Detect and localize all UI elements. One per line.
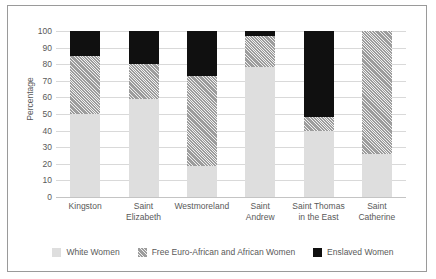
y-tick-label: 30 [18,143,52,152]
gridline [56,81,406,82]
x-tick-label-line: Saint [348,201,406,212]
bar-segment[interactable] [304,31,334,117]
gridline [56,131,406,132]
y-tick-label: 0 [18,193,52,202]
x-tick-label: SaintAndrew [231,201,289,223]
bar-segment[interactable] [362,154,392,197]
gridline [56,64,406,65]
legend-item[interactable]: Enslaved Women [313,248,393,257]
bar-group [70,31,100,197]
bar-segment[interactable] [304,131,334,197]
x-tick-label-line: Saint [231,201,289,212]
enslaved-women-swatch [313,248,322,257]
bar-segment[interactable] [70,31,100,56]
x-tick-label-line: Andrew [231,212,289,223]
gridline [56,197,406,198]
gridline [56,180,406,181]
gridline [56,147,406,148]
bar-segment[interactable] [245,31,275,36]
x-tick-label-line: Saint Thomas [289,201,347,212]
y-tick-label: 20 [18,160,52,169]
bar-stack[interactable] [245,31,275,197]
bar-segment[interactable] [245,36,275,67]
x-tick-label: Westmoreland [173,201,231,212]
bar-segment[interactable] [70,114,100,197]
y-tick-label: 60 [18,93,52,102]
x-tick-label-line: Catherine [348,212,406,223]
x-tick-label: Saint Thomasin the East [289,201,347,223]
legend-label: Free Euro-African and African Women [152,248,295,257]
bar-segment[interactable] [129,64,159,99]
x-tick-label-line: Saint [114,201,172,212]
gridline [56,164,406,165]
bar-segment[interactable] [187,76,217,166]
bar-segment[interactable] [187,31,217,76]
y-tick-label: 90 [18,44,52,53]
x-tick-label-line: in the East [289,212,347,223]
bar-segment[interactable] [129,99,159,197]
gridline [56,97,406,98]
bar-group [129,31,159,197]
y-tick-label: 50 [18,110,52,119]
bar-segment[interactable] [129,31,159,64]
bar-group [362,31,392,197]
y-axis-tick-labels: 0102030405060708090100 [16,31,52,197]
chart-frame: Percentage 0102030405060708090100 Kingst… [7,5,427,272]
x-tick-label-line: Westmoreland [173,201,231,212]
legend-item[interactable]: Free Euro-African and African Women [138,248,295,257]
y-tick-label: 100 [18,27,52,36]
bar-stack[interactable] [70,31,100,197]
y-tick-label: 80 [18,60,52,69]
gridline [56,31,406,32]
legend-item[interactable]: White Women [52,248,119,257]
y-tick-label: 40 [18,127,52,136]
x-tick-label: SaintCatherine [348,201,406,223]
bar-group [245,31,275,197]
free-women-swatch [138,248,147,257]
x-axis-tick-labels: KingstonSaintElizabethWestmorelandSaintA… [56,201,406,237]
legend-label: White Women [66,248,119,257]
chart-legend: White WomenFree Euro-African and African… [38,245,408,259]
x-tick-label: Kingston [56,201,114,212]
bar-stack[interactable] [187,31,217,197]
gridline [56,48,406,49]
white-women-swatch [52,248,61,257]
bar-segment[interactable] [187,166,217,197]
bar-stack[interactable] [304,31,334,197]
x-tick-label: SaintElizabeth [114,201,172,223]
legend-label: Enslaved Women [327,248,393,257]
x-tick-label-line: Kingston [56,201,114,212]
x-tick-label-line: Elizabeth [114,212,172,223]
y-tick-label: 10 [18,176,52,185]
bar-stack[interactable] [129,31,159,197]
y-tick-label: 70 [18,77,52,86]
bar-group [187,31,217,197]
bar-group [304,31,334,197]
plot-area [56,31,406,197]
bar-segment[interactable] [362,31,392,154]
bar-stack[interactable] [362,31,392,197]
bar-segment[interactable] [70,56,100,114]
bar-segment[interactable] [245,67,275,197]
gridline [56,114,406,115]
bar-segment[interactable] [304,117,334,130]
